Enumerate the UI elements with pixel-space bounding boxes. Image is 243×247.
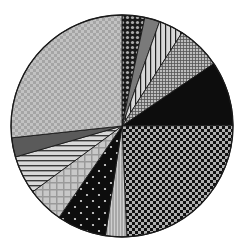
- pie-slice-s12: [11, 15, 122, 138]
- pie-slices: [11, 15, 233, 237]
- pie-chart: [0, 0, 243, 247]
- pie-slice-s6: [122, 125, 233, 237]
